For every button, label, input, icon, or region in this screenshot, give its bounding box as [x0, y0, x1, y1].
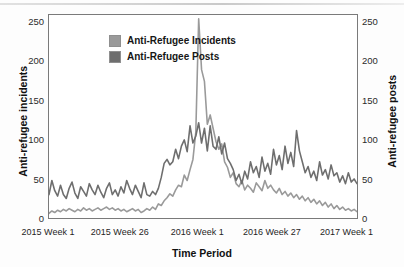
x-tick-2: 2016 Week 1 [171, 228, 224, 237]
legend-label-posts: Anti-Refugee Posts [127, 52, 219, 62]
line-anti-refugee-posts [49, 123, 357, 199]
legend-item-posts: Anti-Refugee Posts [109, 51, 236, 63]
y-axis-left-title: Anti-refugee incidents [18, 51, 29, 191]
x-axis-title: Time Period [0, 248, 404, 259]
x-tick-4: 2017 Week 1 [320, 228, 373, 237]
y-tick-left-50: 50 [14, 175, 44, 185]
x-tick-0: 2015 Week 1 [22, 228, 75, 237]
plot-area: Anti-Refugee Incidents Anti-Refugee Post… [48, 14, 358, 219]
chart-legend: Anti-Refugee Incidents Anti-Refugee Post… [109, 35, 236, 63]
legend-swatch-posts [109, 51, 121, 63]
legend-item-incidents: Anti-Refugee Incidents [109, 35, 236, 47]
y-tick-left-200: 200 [14, 56, 44, 66]
chart-figure: Anti-refugee incidents Anti-refugee post… [0, 0, 404, 267]
legend-label-incidents: Anti-Refugee Incidents [127, 36, 236, 46]
legend-swatch-incidents [109, 35, 121, 47]
y-axis-right-title: Anti-refugee posts [387, 51, 398, 191]
y-tick-left-250: 250 [14, 17, 44, 27]
y-tick-right-200: 200 [362, 56, 392, 66]
y-tick-left-0: 0 [14, 214, 44, 224]
scan-artifact-line [0, 3, 404, 5]
y-tick-right-0: 0 [362, 214, 392, 224]
x-tick-3: 2016 Week 27 [243, 228, 301, 237]
y-tick-right-50: 50 [362, 175, 392, 185]
y-tick-right-250: 250 [362, 17, 392, 27]
y-tick-right-150: 150 [362, 96, 392, 106]
x-tick-1: 2015 Week 26 [91, 228, 149, 237]
y-tick-right-100: 100 [362, 135, 392, 145]
y-tick-left-150: 150 [14, 96, 44, 106]
y-tick-left-100: 100 [14, 135, 44, 145]
